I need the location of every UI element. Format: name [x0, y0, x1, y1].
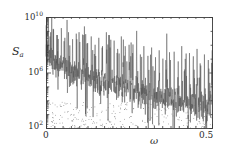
plot-canvas [0, 0, 227, 155]
spectral-density-figure: Sa ω 1010 106 102 0 0.5 [0, 0, 227, 155]
spectrum-trace [46, 17, 212, 129]
